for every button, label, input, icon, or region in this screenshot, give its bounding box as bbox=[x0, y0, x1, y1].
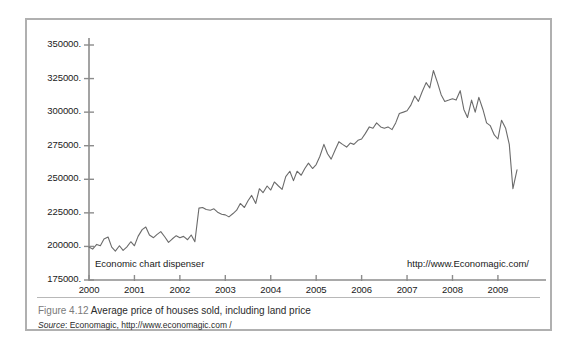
y-axis-tick-label: 225000. bbox=[27, 206, 81, 217]
caption-block: Figure 4.12 Average price of houses sold… bbox=[38, 304, 543, 332]
x-axis-tick-label: 2002 bbox=[160, 284, 200, 295]
caption-divider bbox=[37, 297, 540, 298]
chart-series bbox=[89, 71, 517, 252]
x-axis-tick-label: 2003 bbox=[205, 284, 245, 295]
x-axis-tick-label: 2009 bbox=[478, 284, 518, 295]
x-axis-tick-label: 2004 bbox=[251, 284, 291, 295]
watermark-economagic-url: http://www.Economagic.com/ bbox=[407, 258, 529, 269]
y-axis-tick-label: 175000. bbox=[27, 273, 81, 284]
figure-source: Source: Economagic, http://www.economagi… bbox=[38, 319, 543, 332]
figure-caption: Figure 4.12 Average price of houses sold… bbox=[38, 304, 543, 318]
x-axis-tick-label: 2005 bbox=[296, 284, 336, 295]
figure-number: Figure 4.12 bbox=[38, 305, 89, 316]
y-axis-tick-label: 325000. bbox=[27, 72, 81, 83]
x-axis-tick-label: 2001 bbox=[114, 284, 154, 295]
x-axis-tick-label: 2007 bbox=[387, 284, 427, 295]
y-axis-tick-label: 275000. bbox=[27, 139, 81, 150]
chart-plot-region: 350000.325000.300000.275000.250000.22500… bbox=[27, 20, 550, 290]
y-axis-tick-label: 350000. bbox=[27, 38, 81, 49]
chart-axes bbox=[84, 38, 546, 281]
watermark-economic-chart-dispenser: Economic chart dispenser bbox=[95, 258, 204, 269]
x-axis-tick-label: 2006 bbox=[342, 284, 382, 295]
figure-card: 350000.325000.300000.275000.250000.22500… bbox=[25, 18, 552, 331]
y-axis-tick-label: 250000. bbox=[27, 172, 81, 183]
data-line-average-price-of-houses-sold bbox=[89, 71, 517, 252]
figure-caption-text: Average price of houses sold, including … bbox=[91, 305, 311, 316]
y-axis-tick-label: 200000. bbox=[27, 239, 81, 250]
chart-svg bbox=[27, 20, 550, 290]
x-axis-tick-label: 2008 bbox=[432, 284, 472, 295]
source-text: : Economagic, http://www.economagic.com … bbox=[65, 320, 232, 330]
x-axis-tick-label: 2000 bbox=[69, 284, 109, 295]
source-label: Source bbox=[38, 320, 65, 330]
y-axis-tick-label: 300000. bbox=[27, 105, 81, 116]
